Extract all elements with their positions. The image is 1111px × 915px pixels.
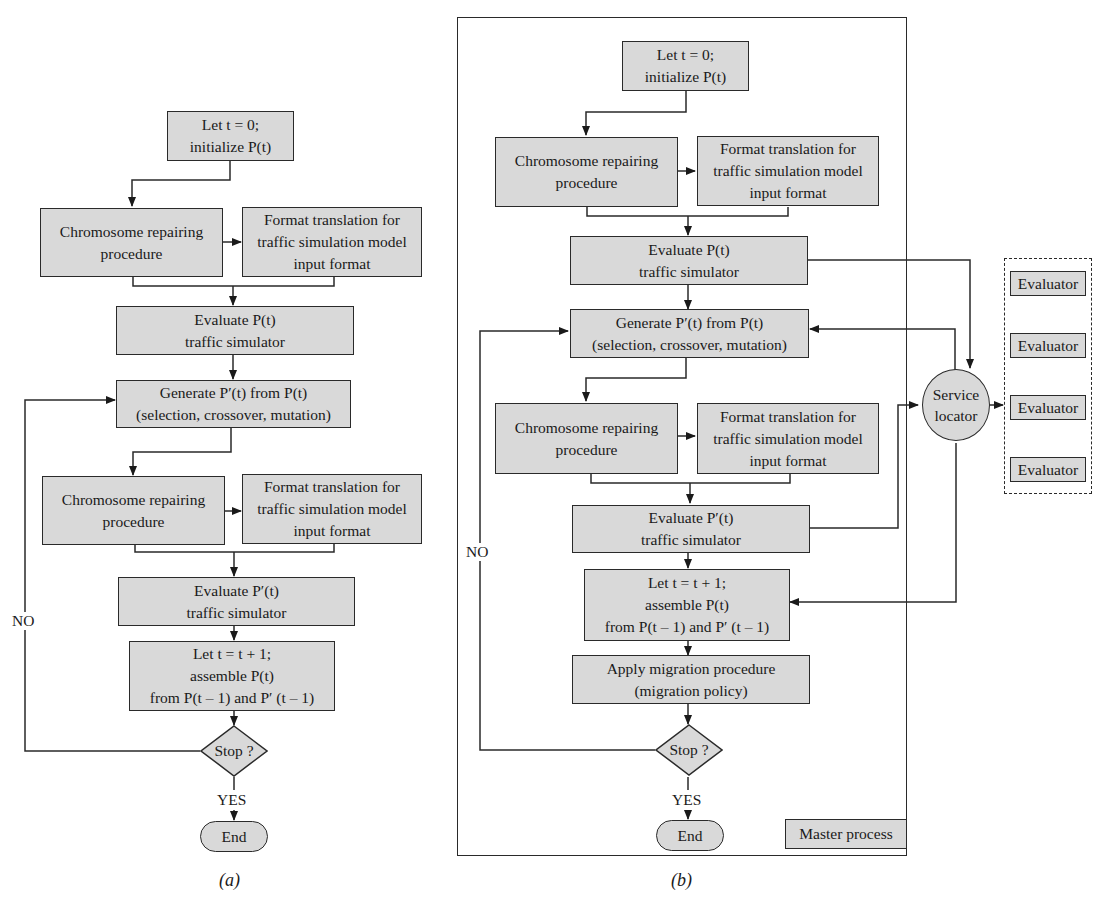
- evaluate-p-prime-label-b: Evaluate P′(t) traffic simulator: [641, 507, 741, 551]
- yes-label-b: YES: [672, 791, 701, 809]
- assemble-label: Let t = t + 1; assemble P(t) from P(t – …: [150, 643, 314, 709]
- format-translation-node-b-2: Format translation for traffic simulatio…: [697, 403, 879, 474]
- evaluator-label-4: Evaluator: [1018, 459, 1078, 481]
- format-translation-node: Format translation for traffic simulatio…: [242, 207, 422, 277]
- end-label-b: End: [678, 825, 703, 847]
- generate-label: Generate P′(t) from P(t) (selection, cro…: [136, 382, 331, 426]
- evaluator-label-3: Evaluator: [1018, 397, 1078, 419]
- master-process-label-box: Master process: [785, 819, 907, 849]
- start-node-b: Let t = 0; initialize P(t): [622, 41, 749, 91]
- chromosome-repair-node-2: Chromosome repairing procedure: [42, 476, 225, 545]
- end-node: End: [200, 821, 268, 852]
- chromosome-repair-label-b-2: Chromosome repairing procedure: [515, 417, 658, 461]
- chromosome-repair-label: Chromosome repairing procedure: [60, 221, 203, 265]
- end-node-b: End: [656, 820, 724, 851]
- evaluate-p-prime-node-b: Evaluate P′(t) traffic simulator: [572, 505, 810, 553]
- format-translation-node-2: Format translation for traffic simulatio…: [242, 474, 422, 544]
- stop-decision-b: Stop ?: [655, 724, 723, 776]
- format-translation-label-b: Format translation for traffic simulatio…: [713, 138, 863, 204]
- start-label: Let t = 0; initialize P(t): [190, 114, 271, 158]
- evaluator-node-2: Evaluator: [1010, 333, 1086, 358]
- end-label: End: [222, 826, 247, 848]
- evaluate-p-label: Evaluate P(t) traffic simulator: [185, 309, 285, 353]
- evaluate-p-prime-node: Evaluate P′(t) traffic simulator: [118, 577, 355, 626]
- evaluate-p-node-b: Evaluate P(t) traffic simulator: [570, 236, 808, 285]
- evaluator-node-4: Evaluator: [1010, 457, 1086, 482]
- evaluate-p-label-b: Evaluate P(t) traffic simulator: [639, 239, 739, 283]
- chromosome-repair-node-b-2: Chromosome repairing procedure: [495, 403, 678, 474]
- chromosome-repair-node: Chromosome repairing procedure: [40, 208, 223, 277]
- chromosome-repair-label-2: Chromosome repairing procedure: [62, 489, 205, 533]
- start-label-b: Let t = 0; initialize P(t): [645, 44, 726, 88]
- format-translation-label: Format translation for traffic simulatio…: [257, 209, 407, 275]
- chromosome-repair-node-b: Chromosome repairing procedure: [495, 137, 678, 207]
- format-translation-label-b-2: Format translation for traffic simulatio…: [713, 406, 863, 472]
- assemble-node-b: Let t = t + 1; assemble P(t) from P(t – …: [584, 569, 790, 641]
- migration-node: Apply migration procedure (migration pol…: [572, 655, 810, 704]
- assemble-label-b: Let t = t + 1; assemble P(t) from P(t – …: [605, 572, 769, 638]
- generate-label-b: Generate P′(t) from P(t) (selection, cro…: [592, 312, 787, 356]
- evaluator-label-1: Evaluator: [1018, 273, 1078, 295]
- evaluator-label-2: Evaluator: [1018, 335, 1078, 357]
- evaluate-p-prime-label: Evaluate P′(t) traffic simulator: [186, 580, 286, 624]
- master-process-label: Master process: [799, 823, 892, 845]
- assemble-node: Let t = t + 1; assemble P(t) from P(t – …: [129, 641, 335, 711]
- stop-decision: Stop ?: [200, 725, 268, 777]
- stop-label: Stop ?: [214, 742, 253, 760]
- service-locator-label: Service locator: [933, 384, 979, 426]
- generate-node: Generate P′(t) from P(t) (selection, cro…: [116, 380, 351, 428]
- chromosome-repair-label-b: Chromosome repairing procedure: [515, 150, 658, 194]
- caption-a: (a): [219, 870, 240, 891]
- evaluate-p-node: Evaluate P(t) traffic simulator: [116, 306, 354, 355]
- evaluator-node-3: Evaluator: [1010, 395, 1086, 420]
- format-translation-label-2: Format translation for traffic simulatio…: [257, 476, 407, 542]
- service-locator-node: Service locator: [922, 369, 990, 441]
- start-node: Let t = 0; initialize P(t): [167, 111, 294, 161]
- generate-node-b: Generate P′(t) from P(t) (selection, cro…: [570, 309, 809, 358]
- stop-label-b: Stop ?: [669, 741, 708, 759]
- evaluator-node-1: Evaluator: [1010, 271, 1086, 296]
- migration-label: Apply migration procedure (migration pol…: [607, 658, 776, 702]
- no-label-b: NO: [466, 543, 488, 561]
- yes-label: YES: [217, 791, 246, 809]
- format-translation-node-b: Format translation for traffic simulatio…: [697, 136, 879, 206]
- no-label: NO: [12, 612, 34, 630]
- caption-b: (b): [671, 870, 692, 891]
